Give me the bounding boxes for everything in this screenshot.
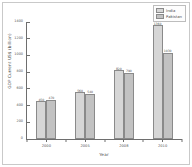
x-tick-label: 2005 bbox=[81, 144, 90, 149]
bar-value-label: 470 bbox=[48, 96, 54, 100]
x-tick-separator bbox=[182, 139, 183, 142]
chart-legend: India Pakistan bbox=[153, 5, 186, 22]
x-tick-separator bbox=[104, 139, 105, 142]
bar-value-label: 560 bbox=[77, 89, 83, 93]
legend-item-pakistan: Pakistan bbox=[156, 14, 182, 20]
x-axis-title: Year bbox=[26, 152, 182, 158]
bar-value-label: 1360 bbox=[154, 22, 162, 26]
bar-india-2008: 820 bbox=[114, 70, 124, 139]
x-tick-mark bbox=[123, 139, 124, 142]
y-tick-label: 800 bbox=[17, 69, 23, 74]
bar-group-2008: 820790 bbox=[114, 22, 134, 139]
bar-pakistan-2005: 540 bbox=[85, 94, 95, 139]
x-tick-label: 2000 bbox=[42, 144, 51, 149]
legend-label-india: India bbox=[166, 8, 175, 13]
bar-pakistan-2008: 790 bbox=[124, 73, 134, 139]
x-tick-mark bbox=[46, 139, 47, 142]
bar-pakistan-2010: 1030 bbox=[163, 53, 173, 139]
x-tick-separator bbox=[27, 139, 28, 142]
x-tick-separator bbox=[143, 139, 144, 142]
bar-india-2000: 450 bbox=[36, 101, 46, 139]
bar-value-label: 540 bbox=[87, 90, 93, 94]
bar-india-2005: 560 bbox=[75, 92, 85, 139]
bar-value-label: 820 bbox=[116, 67, 122, 71]
x-tick-label: 2010 bbox=[158, 144, 167, 149]
bar-group-2005: 560540 bbox=[75, 22, 95, 139]
bar-value-label: 790 bbox=[126, 69, 132, 73]
bar-india-2010: 1360 bbox=[153, 25, 163, 139]
x-tick-separator bbox=[65, 139, 66, 142]
y-tick-label: 400 bbox=[17, 103, 23, 108]
plot-area: 0200400600800100012001400 20002005200820… bbox=[26, 22, 182, 140]
legend-label-pakistan: Pakistan bbox=[166, 14, 182, 19]
chart-figure: 0200400600800100012001400 20002005200820… bbox=[0, 0, 192, 167]
y-tick-label: 1200 bbox=[14, 36, 23, 41]
y-tick-label: 1400 bbox=[14, 19, 23, 24]
legend-swatch-pakistan bbox=[156, 14, 164, 19]
x-tick-mark bbox=[162, 139, 163, 142]
bar-group-2000: 450470 bbox=[36, 22, 56, 139]
x-tick-label: 2008 bbox=[119, 144, 128, 149]
bar-pakistan-2000: 470 bbox=[46, 100, 56, 139]
y-tick-label: 600 bbox=[17, 86, 23, 91]
bars-layer: 45047056054082079013601030 bbox=[27, 22, 182, 139]
y-tick-label: 200 bbox=[17, 119, 23, 124]
y-tick-label: 1000 bbox=[14, 52, 23, 57]
bar-value-label: 1030 bbox=[164, 49, 172, 53]
bar-value-label: 450 bbox=[38, 98, 44, 102]
legend-swatch-india bbox=[156, 8, 164, 13]
y-tick-label: 0 bbox=[21, 136, 23, 141]
x-tick-mark bbox=[85, 139, 86, 142]
bar-group-2010: 13601030 bbox=[153, 22, 173, 139]
y-axis-title: GDP Current US$ (billion) bbox=[7, 11, 13, 111]
